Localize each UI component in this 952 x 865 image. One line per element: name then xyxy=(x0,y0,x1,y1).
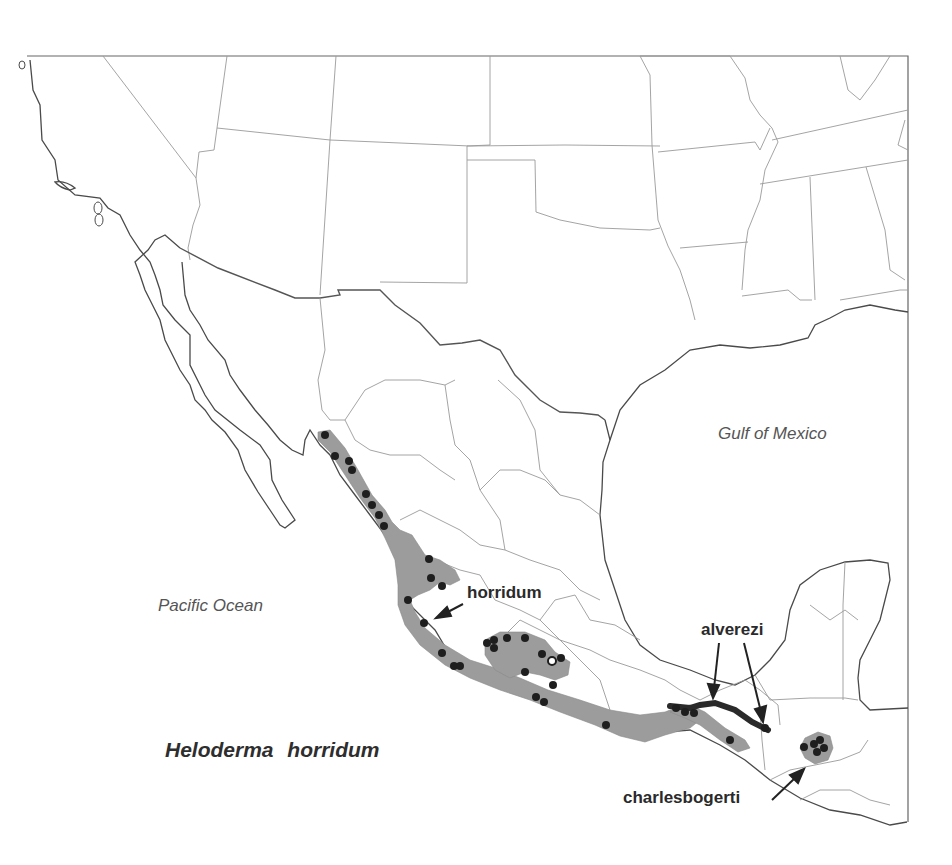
us-state-borders xyxy=(103,56,908,320)
subspecies-label-charlesbogerti: charlesbogerti xyxy=(623,788,740,808)
open-locality-circle xyxy=(548,657,556,665)
map-title: Heloderma horridum xyxy=(165,738,380,762)
subspecies-label-horridum: horridum xyxy=(467,583,542,603)
gulf-of-mexico-label: Gulf of Mexico xyxy=(718,424,827,444)
range-shading xyxy=(318,430,833,764)
pacific-ocean-label: Pacific Ocean xyxy=(158,596,263,616)
subspecies-label-alvarezi: alverezi xyxy=(701,620,763,640)
